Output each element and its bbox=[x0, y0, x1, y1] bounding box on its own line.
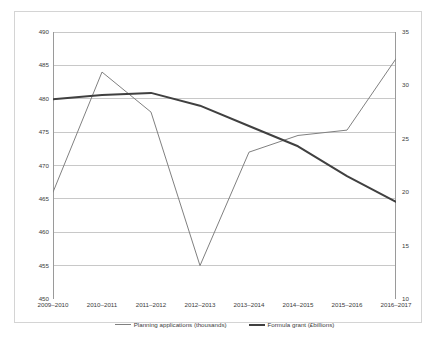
plot-svg bbox=[53, 32, 396, 299]
right-axis-tick-label: 15 bbox=[402, 243, 409, 249]
legend-line-swatch-icon bbox=[249, 324, 265, 326]
legend-line-swatch-icon bbox=[115, 324, 131, 325]
chart-frame: 450455460465470475480485490 101520253035… bbox=[14, 11, 422, 323]
left-axis-tick-label: 485 bbox=[39, 62, 49, 68]
x-axis-tick-label: 2014–2015 bbox=[283, 302, 314, 308]
series-lines bbox=[53, 59, 396, 266]
left-axis-tick-label: 465 bbox=[39, 196, 49, 202]
x-axis-tick-label: 2015–2016 bbox=[332, 302, 363, 308]
x-axis-tick-label: 2016–2017 bbox=[381, 302, 412, 308]
legend-label: Formula grant (£billions) bbox=[268, 322, 335, 328]
x-axis-tick-label: 2010–2011 bbox=[87, 302, 118, 308]
right-axis-labels: 101520253035 bbox=[398, 32, 432, 299]
left-axis-tick-label: 475 bbox=[39, 129, 49, 135]
legend-label: Planning applications (thousands) bbox=[134, 322, 227, 328]
left-axis-tick-label: 480 bbox=[39, 96, 49, 102]
chart-container: 450455460465470475480485490 101520253035… bbox=[0, 0, 436, 339]
gridlines bbox=[53, 32, 396, 299]
plot-area bbox=[53, 32, 396, 299]
left-axis-tick-label: 470 bbox=[39, 163, 49, 169]
left-axis-labels: 450455460465470475480485490 bbox=[17, 32, 51, 299]
x-axis-tick-label: 2009–2010 bbox=[38, 302, 69, 308]
legend-item-formula-grant: Formula grant (£billions) bbox=[249, 322, 335, 328]
right-axis-tick-label: 20 bbox=[402, 189, 409, 195]
left-axis-tick-label: 490 bbox=[39, 29, 49, 35]
right-axis-tick-label: 35 bbox=[402, 29, 409, 35]
left-axis-tick-label: 460 bbox=[39, 229, 49, 235]
chart-legend: Planning applications (thousands) Formul… bbox=[53, 319, 396, 331]
series-line bbox=[53, 93, 396, 202]
x-axis-labels: 2009–20102010–20112011–20122012–20132013… bbox=[53, 302, 396, 316]
series-line bbox=[53, 59, 396, 266]
x-axis-tick-label: 2011–2012 bbox=[136, 302, 167, 308]
legend-item-planning-applications: Planning applications (thousands) bbox=[115, 322, 227, 328]
right-axis-tick-label: 25 bbox=[402, 136, 409, 142]
left-axis-tick-label: 455 bbox=[39, 263, 49, 269]
x-axis-tick-label: 2013–2014 bbox=[234, 302, 265, 308]
x-axis-tick-label: 2012–2013 bbox=[185, 302, 216, 308]
right-axis-tick-label: 30 bbox=[402, 82, 409, 88]
